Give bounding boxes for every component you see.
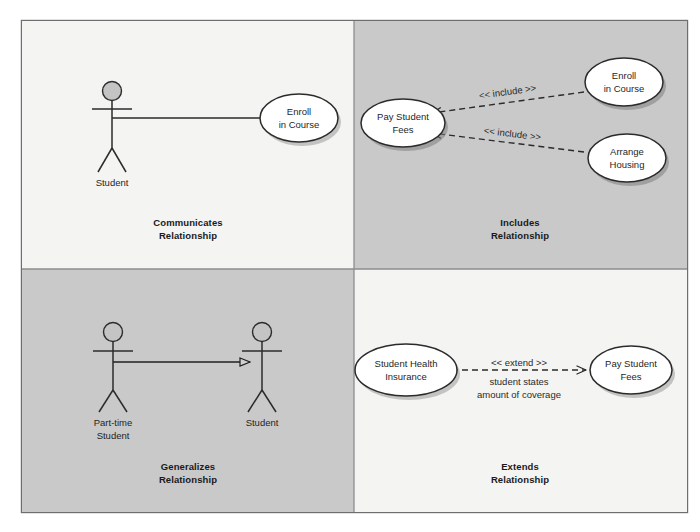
extend-condition-line2: amount of coverage [477,389,561,400]
use-case-label-line1: Pay Student [377,111,429,122]
use-case-label-line2: Insurance [385,371,427,382]
use-case-label-line2: Fees [620,371,641,382]
actor-head-icon [104,323,123,342]
diagram-canvas: Student Enroll in Course Communicates Re… [0,0,700,532]
panel-caption-line2: Relationship [159,230,217,241]
use-case-label-line1: Arrange [610,146,644,157]
use-case-label-line2: Fees [392,124,413,135]
extend-stereotype-label: << extend >> [491,357,547,368]
actor-label-line2: Student [97,430,130,441]
use-case-ellipse [585,58,663,106]
panel-caption-line1: Includes [500,217,539,228]
use-case-ellipse [260,94,338,142]
actor-label-student: Student [246,417,279,428]
actor-label-line1: Part-time [94,417,133,428]
use-case-ellipse [590,346,672,394]
actor-head-icon [253,323,272,342]
panel-caption-line1: Generalizes [161,461,215,472]
use-case-ellipse [588,134,666,182]
panel-caption-line2: Relationship [491,230,549,241]
use-case-label-line2: in Course [604,83,645,94]
actor-head-icon [103,82,122,101]
use-case-label-line1: Student Health [375,358,438,369]
panel-caption-line2: Relationship [159,474,217,485]
extend-condition-line1: student states [489,376,548,387]
use-case-label-line1: Enroll [287,106,311,117]
actor-label-student: Student [96,177,129,188]
use-case-ellipse [355,344,457,396]
use-case-label-line1: Enroll [612,70,636,81]
use-case-relationship-figure: Student Enroll in Course Communicates Re… [0,0,700,532]
use-case-ellipse [361,99,445,147]
panel-caption-line1: Communicates [153,217,222,228]
use-case-label-line1: Pay Student [605,358,657,369]
panel-caption-line1: Extends [501,461,539,472]
panel-caption-line2: Relationship [491,474,549,485]
use-case-label-line2: in Course [279,119,320,130]
use-case-label-line2: Housing [610,159,645,170]
